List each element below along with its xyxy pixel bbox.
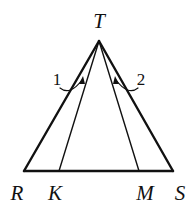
segment-TM (99, 41, 139, 171)
angle-label-1: 1 (53, 70, 62, 89)
triangle-diagram: T R K M S 1 2 (0, 0, 194, 209)
point-label-S: S (175, 181, 186, 205)
angle-1-arrow-icon (79, 76, 85, 84)
angle-2-arrow-icon (113, 76, 119, 84)
point-label-R: R (10, 181, 24, 205)
point-label-T: T (93, 9, 106, 33)
segment-TK (59, 41, 99, 171)
point-label-M: M (135, 181, 155, 205)
angle-label-2: 2 (137, 70, 146, 89)
point-label-K: K (47, 181, 63, 205)
segment-TR (24, 41, 99, 171)
segment-TS (99, 41, 173, 171)
